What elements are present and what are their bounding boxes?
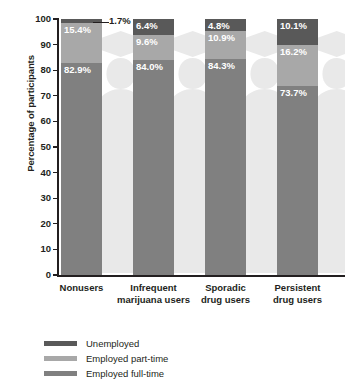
y-tick-mark-20 [53, 223, 57, 224]
legend-swatch [44, 371, 77, 377]
legend-item-employed-part-time[interactable]: Employed part-time [44, 351, 168, 366]
segment-value-label: 16.2% [280, 47, 307, 57]
x-axis-label-line: drug users [255, 294, 341, 306]
legend-label: Employed part-time [86, 354, 168, 364]
bar-segment-employed-full-time[interactable]: 84.3% [205, 59, 246, 275]
segment-value-label: 6.4% [136, 21, 158, 31]
legend-label: Employed full-time [86, 369, 164, 379]
x-axis-label-line: Persistent [255, 282, 341, 294]
bar-segment-employed-part-time[interactable]: 16.2% [277, 45, 318, 86]
bar-nonusers[interactable]: 82.9%15.4%1.7% [61, 19, 102, 275]
segment-value-label: 10.9% [208, 33, 235, 43]
y-tick-mark-70 [53, 95, 57, 96]
segment-value-label: 1.7% [109, 16, 131, 26]
segment-value-label: 9.6% [136, 37, 158, 47]
y-tick-mark-10 [53, 249, 57, 250]
y-tick-label-70: 70 [27, 91, 51, 101]
bar-segment-unemployed[interactable]: 1.7% [61, 19, 102, 23]
bar-segment-unemployed[interactable]: 4.8% [205, 19, 246, 31]
chart-legend: UnemployedEmployed part-timeEmployed ful… [44, 336, 168, 381]
y-tick-label-40: 40 [27, 168, 51, 178]
segment-value-label: 15.4% [64, 25, 91, 35]
y-tick-mark-90 [53, 44, 57, 45]
bar-sporadic-drug-users[interactable]: 84.3%10.9%4.8% [205, 19, 246, 275]
legend-label: Unemployed [86, 339, 139, 349]
y-tick-mark-60 [53, 121, 57, 122]
bar-segment-employed-full-time[interactable]: 73.7% [277, 86, 318, 275]
y-tick-label-0: 0 [27, 270, 51, 280]
y-tick-mark-80 [53, 70, 57, 71]
y-tick-label-60: 60 [27, 117, 51, 127]
bar-segment-employed-part-time[interactable]: 15.4% [61, 23, 102, 62]
stacked-bar-chart: Percentage of participants 1009080706050… [0, 0, 355, 388]
leader-line [93, 22, 109, 23]
bar-infrequent-marijuana-users[interactable]: 84.0%9.6%6.4% [133, 19, 174, 275]
segment-value-label: 4.8% [208, 21, 230, 31]
segment-value-label: 73.7% [280, 88, 307, 98]
legend-item-unemployed[interactable]: Unemployed [44, 336, 168, 351]
y-tick-label-20: 20 [27, 219, 51, 229]
legend-swatch [44, 356, 77, 362]
y-tick-label-30: 30 [27, 193, 51, 203]
x-axis-line [57, 275, 345, 277]
x-axis-label-persistent-drug-users: Persistentdrug users [255, 282, 341, 305]
y-tick-mark-0 [53, 274, 57, 275]
segment-value-label: 82.9% [64, 65, 91, 75]
bar-segment-employed-part-time[interactable]: 10.9% [205, 31, 246, 59]
y-tick-mark-30 [53, 198, 57, 199]
bar-persistent-drug-users[interactable]: 73.7%16.2%10.1% [277, 19, 318, 275]
segment-value-label: 10.1% [280, 21, 307, 31]
y-tick-label-10: 10 [27, 245, 51, 255]
y-tick-label-80: 80 [27, 65, 51, 75]
bar-segment-employed-part-time[interactable]: 9.6% [133, 35, 174, 60]
legend-item-employed-full-time[interactable]: Employed full-time [44, 366, 168, 381]
y-tick-label-90: 90 [27, 40, 51, 50]
bar-segment-unemployed[interactable]: 6.4% [133, 19, 174, 35]
bar-segment-employed-full-time[interactable]: 82.9% [61, 63, 102, 275]
segment-value-label: 84.3% [208, 61, 235, 71]
y-tick-mark-40 [53, 172, 57, 173]
y-tick-label-100: 100 [27, 14, 51, 24]
segment-value-label: 84.0% [136, 62, 163, 72]
y-tick-label-50: 50 [27, 142, 51, 152]
legend-swatch [44, 341, 77, 347]
y-tick-mark-100 [53, 18, 57, 19]
bar-segment-unemployed[interactable]: 10.1% [277, 19, 318, 45]
y-tick-mark-50 [53, 146, 57, 147]
bar-segment-employed-full-time[interactable]: 84.0% [133, 60, 174, 275]
plot-area: 82.9%15.4%1.7%84.0%9.6%6.4%84.3%10.9%4.8… [58, 19, 345, 275]
